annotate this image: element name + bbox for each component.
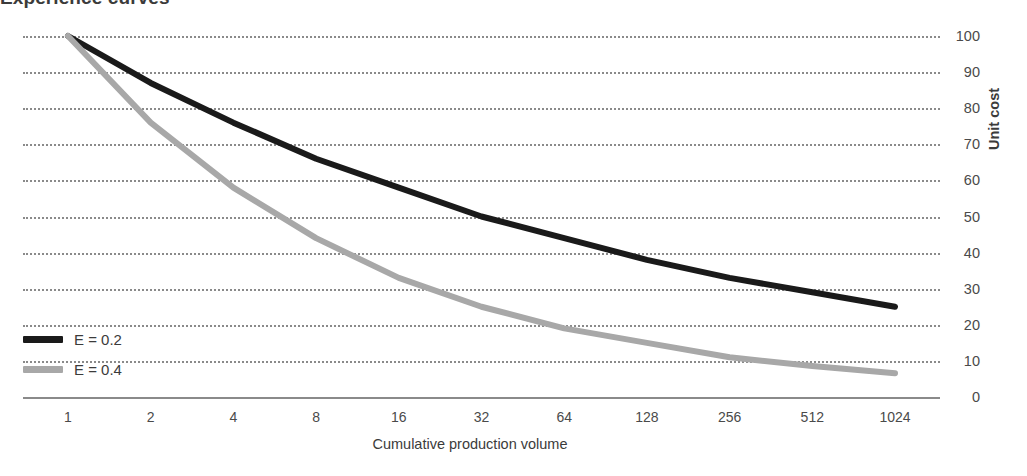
legend-swatch-icon [23, 336, 63, 343]
y-axis-tick-labels: 1009080706050403020100 [944, 0, 988, 476]
y-tick-label-50: 50 [944, 209, 980, 225]
x-tick-label-512: 512 [782, 409, 842, 425]
series-line-e-04 [68, 36, 895, 373]
legend-item-2[interactable]: E = 0.4 [23, 357, 122, 381]
y-tick-label-70: 70 [944, 136, 980, 152]
legend-label: E = 0.4 [74, 361, 122, 378]
y-tick-label-30: 30 [944, 281, 980, 297]
y-tick-label-60: 60 [944, 172, 980, 188]
x-tick-label-16: 16 [369, 409, 429, 425]
x-tick-label-1: 1 [38, 409, 98, 425]
chart-title: Experience curves [0, 0, 700, 13]
legend-label: E = 0.2 [74, 331, 122, 348]
x-tick-label-4: 4 [203, 409, 263, 425]
x-tick-label-256: 256 [700, 409, 760, 425]
y-tick-label-100: 100 [944, 28, 980, 44]
y-tick-label-0: 0 [944, 389, 980, 405]
chart-legend: E = 0.2E = 0.4 [23, 327, 243, 385]
y-tick-label-10: 10 [944, 353, 980, 369]
x-tick-label-128: 128 [617, 409, 677, 425]
gridline-0 [23, 397, 940, 399]
y-tick-label-40: 40 [944, 245, 980, 261]
x-tick-label-64: 64 [534, 409, 594, 425]
x-axis-title: Cumulative production volume [0, 436, 940, 452]
y-tick-label-90: 90 [944, 64, 980, 80]
x-tick-label-32: 32 [452, 409, 512, 425]
x-tick-label-8: 8 [286, 409, 346, 425]
y-tick-label-20: 20 [944, 317, 980, 333]
legend-item-1[interactable]: E = 0.2 [23, 327, 122, 351]
x-tick-label-2: 2 [121, 409, 181, 425]
y-tick-label-80: 80 [944, 100, 980, 116]
legend-swatch-icon [23, 366, 63, 373]
y-axis-title: Unit cost [986, 88, 1002, 150]
x-tick-label-1024: 1024 [865, 409, 925, 425]
experience-curves-chart: Experience curves 1009080706050403020100… [0, 0, 1027, 476]
series-line-e-02 [68, 36, 895, 307]
